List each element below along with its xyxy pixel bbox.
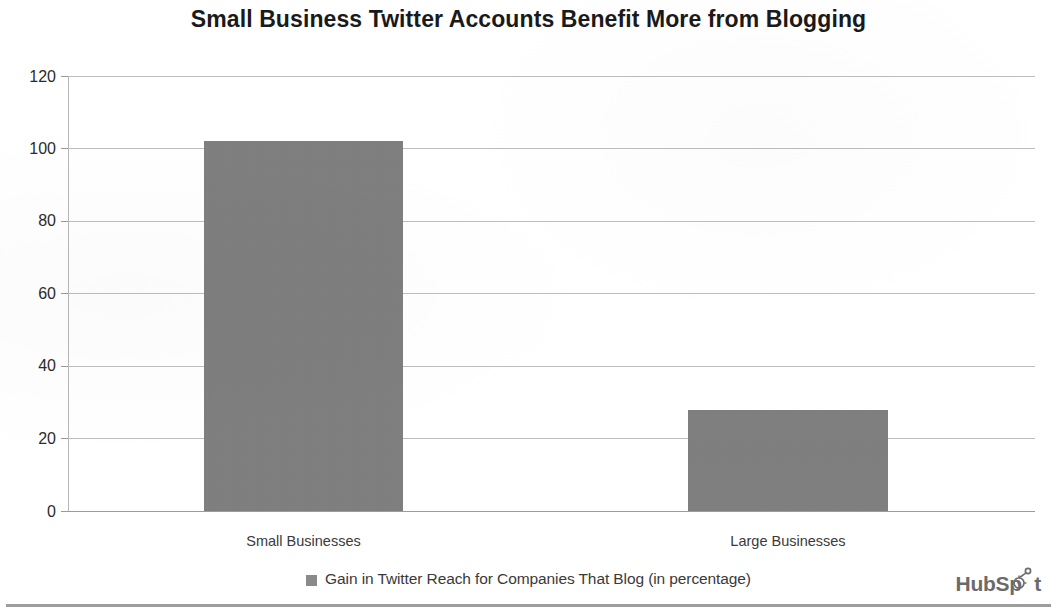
hubspot-sprocket-icon: [1007, 566, 1033, 592]
gridline-120: [68, 76, 1035, 77]
bar-small-businesses[interactable]: [204, 141, 403, 511]
page-title: Small Business Twitter Accounts Benefit …: [0, 6, 1057, 33]
chart-screenshot: Small Business Twitter Accounts Benefit …: [0, 0, 1057, 615]
hubspot-logo: HubSpot: [956, 572, 1041, 596]
y-axis-tick: [61, 221, 68, 222]
bar-large-businesses[interactable]: [688, 410, 888, 512]
legend-label: Gain in Twitter Reach for Companies That…: [325, 570, 751, 588]
hubspot-wordmark: HubSpot: [956, 572, 1041, 596]
y-tick-label: 60: [4, 285, 56, 303]
y-tick-label: 0: [4, 503, 56, 521]
legend: Gain in Twitter Reach for Companies That…: [0, 570, 1057, 588]
y-tick-label: 40: [4, 357, 56, 375]
y-axis-tick: [61, 366, 68, 367]
y-tick-label: 20: [4, 430, 56, 448]
footer-divider: [6, 604, 1051, 607]
y-axis-tick: [61, 76, 68, 77]
y-axis-tick: [61, 438, 68, 439]
x-tick-label-small-businesses: Small Businesses: [204, 533, 403, 549]
x-tick-label-large-businesses: Large Businesses: [688, 533, 888, 549]
y-axis-tick: [61, 293, 68, 294]
y-axis-tick: [61, 511, 68, 512]
y-tick-label: 100: [4, 140, 56, 158]
legend-swatch-icon: [306, 575, 317, 586]
y-tick-label: 120: [4, 68, 56, 86]
y-axis-tick: [61, 148, 68, 149]
plot-area: [68, 76, 1035, 511]
hubspot-wordmark-right: t: [1034, 572, 1041, 595]
gridline-zero-baseline: [68, 511, 1035, 512]
y-tick-label: 80: [4, 212, 56, 230]
